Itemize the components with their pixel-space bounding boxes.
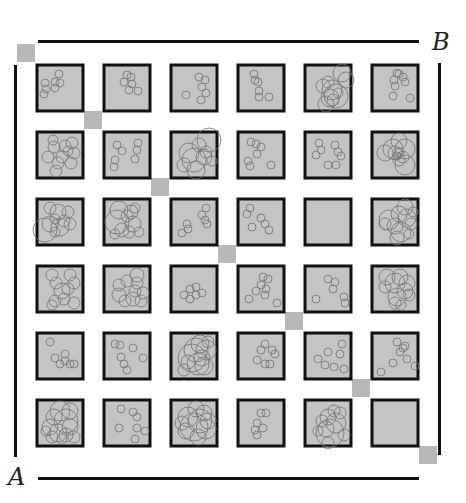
diagonal-marker xyxy=(419,446,437,464)
cell-square xyxy=(104,266,150,312)
diagonal-marker xyxy=(352,379,370,397)
diagonal-marker xyxy=(17,44,35,62)
cell-square xyxy=(37,65,83,111)
matrix-cell xyxy=(238,333,284,379)
matrix-cell xyxy=(305,400,351,449)
matrix-cell xyxy=(372,132,418,178)
matrix-cell xyxy=(305,64,354,112)
cell-square xyxy=(171,400,217,446)
cell-square xyxy=(372,333,418,379)
cell-square xyxy=(104,132,150,178)
matrix-cell xyxy=(372,199,418,245)
matrix-cell xyxy=(104,65,150,111)
matrix-cell xyxy=(104,266,150,312)
matrix-cell xyxy=(37,400,83,446)
matrix-cell xyxy=(305,199,351,245)
cell-square xyxy=(171,132,217,178)
cell-square xyxy=(104,400,150,446)
matrix-cell xyxy=(238,132,284,178)
matrix-cell xyxy=(171,266,217,312)
matrix-cell xyxy=(171,128,221,179)
cell-square xyxy=(104,333,150,379)
matrix-cell xyxy=(238,266,284,312)
matrix-cell xyxy=(104,333,150,379)
diagonal-marker xyxy=(84,111,102,129)
matrix-cell xyxy=(104,132,150,178)
matrix-cell xyxy=(372,400,418,446)
matrix-cell xyxy=(171,400,217,446)
matrix-cell xyxy=(33,199,83,245)
matrix-grid xyxy=(0,0,466,503)
cell-square xyxy=(171,65,217,111)
matrix-cell xyxy=(305,333,351,379)
matrix-cell xyxy=(305,132,351,178)
cell-square xyxy=(305,266,351,312)
diagonal-marker xyxy=(218,245,236,263)
pairwise-matrix-diagram: B A xyxy=(0,0,466,503)
matrix-cell xyxy=(37,333,83,379)
matrix-cell xyxy=(238,400,284,446)
matrix-cell xyxy=(238,199,284,245)
cell-square xyxy=(372,65,418,111)
cell-square xyxy=(238,333,284,379)
matrix-cell xyxy=(37,65,83,111)
matrix-cell xyxy=(372,266,418,312)
diagonal-marker xyxy=(151,178,169,196)
diagonal-marker xyxy=(285,312,303,330)
matrix-cell xyxy=(372,333,419,379)
cell-square xyxy=(372,400,418,446)
cell-square xyxy=(37,333,83,379)
cell-square xyxy=(305,199,351,245)
matrix-cell xyxy=(372,65,418,111)
matrix-cell xyxy=(171,199,217,245)
matrix-cell xyxy=(37,132,83,178)
matrix-cell xyxy=(171,65,217,111)
matrix-cell xyxy=(305,266,351,312)
matrix-cell xyxy=(238,65,284,111)
matrix-cell xyxy=(104,199,150,245)
matrix-cell xyxy=(104,400,150,446)
matrix-cell xyxy=(171,333,217,379)
matrix-cell xyxy=(37,266,83,312)
cell-square xyxy=(104,65,150,111)
